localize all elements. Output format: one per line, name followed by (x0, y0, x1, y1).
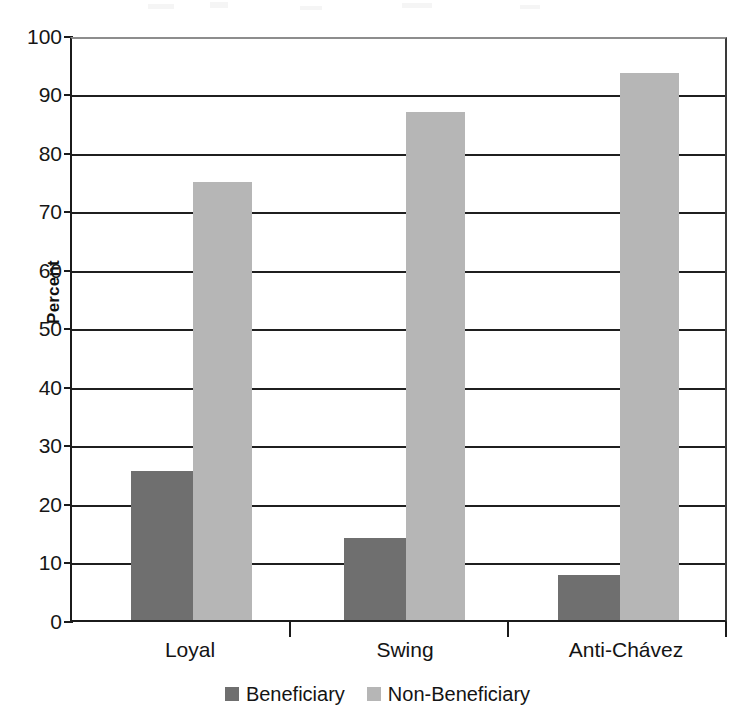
bar-anti-chavez-non-beneficiary (620, 73, 679, 620)
plot-area (70, 37, 727, 622)
x-category-label-anti-chavez: Anti-Chávez (536, 638, 716, 662)
bar-loyal-beneficiary (131, 471, 193, 620)
x-category-separator-tick (289, 622, 291, 637)
y-tick-label-20: 20 (16, 494, 62, 515)
y-tick-label-10: 10 (16, 552, 62, 573)
legend-label-beneficiary: Beneficiary (246, 684, 345, 704)
scan-artifact (300, 6, 322, 10)
bar-anti-chavez-beneficiary (558, 575, 620, 620)
chart-legend: Beneficiary Non-Beneficiary (0, 684, 755, 704)
y-tick-label-40: 40 (16, 377, 62, 398)
scan-artifact (210, 2, 228, 8)
scan-artifact (520, 5, 540, 9)
y-tick-label-0: 0 (16, 611, 62, 632)
legend-item-beneficiary: Beneficiary (225, 684, 345, 704)
y-tick-label-100: 100 (16, 26, 62, 47)
bar-loyal-non-beneficiary (193, 182, 252, 620)
y-tick-label-60: 60 (16, 260, 62, 281)
bar-swing-beneficiary (344, 538, 406, 620)
x-category-separator-tick (507, 622, 509, 637)
x-category-label-loyal: Loyal (110, 638, 270, 662)
legend-swatch-icon (367, 687, 381, 701)
legend-item-non-beneficiary: Non-Beneficiary (367, 684, 530, 704)
y-tick-label-80: 80 (16, 143, 62, 164)
y-tick-label-30: 30 (16, 435, 62, 456)
bar-swing-non-beneficiary (406, 112, 465, 620)
scan-artifact (402, 3, 432, 8)
bar-chart-figure: Percent 100 90 80 70 60 50 40 30 20 10 0 (0, 0, 755, 721)
y-tick-label-70: 70 (16, 201, 62, 222)
scan-artifact (148, 4, 174, 9)
legend-label-non-beneficiary: Non-Beneficiary (388, 684, 530, 704)
y-tick-label-90: 90 (16, 84, 62, 105)
legend-swatch-icon (225, 687, 239, 701)
y-tick-label-50: 50 (16, 318, 62, 339)
x-category-separator-tick (725, 622, 727, 637)
x-category-label-swing: Swing (325, 638, 485, 662)
